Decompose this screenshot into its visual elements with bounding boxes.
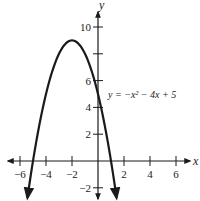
x-tick-label: −2	[66, 168, 78, 180]
y-tick-label: −2	[79, 182, 91, 194]
x-axis-label: x	[192, 154, 199, 168]
chart-canvas: −6−4−2246−224610 x y y = −x² − 4x + 5	[0, 0, 200, 201]
y-axis-label: y	[98, 0, 105, 12]
x-tick-label: 2	[121, 168, 127, 180]
y-tick-label: 6	[86, 75, 92, 87]
y-tick-label: 2	[86, 128, 92, 140]
axes	[8, 12, 190, 199]
x-tick-label: −6	[14, 168, 26, 180]
parabola-chart: −6−4−2246−224610 x y y = −x² − 4x + 5	[0, 0, 200, 201]
x-tick-label: 4	[147, 168, 153, 180]
y-tick-label: 10	[80, 21, 92, 33]
equation-label: y = −x² − 4x + 5	[107, 89, 176, 100]
x-tick-label: −4	[40, 168, 52, 180]
x-tick-label: 6	[173, 168, 179, 180]
y-tick-label: 4	[86, 101, 92, 113]
